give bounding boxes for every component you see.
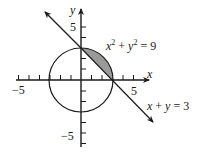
circle-equation-label: x2 + y2 = 9 — [105, 38, 156, 53]
y-axis-label: y — [69, 3, 76, 17]
y-tick-label-5: 5 — [70, 20, 76, 34]
x-tick-label-5: 5 — [131, 84, 137, 98]
y-axis-ticks — [81, 27, 86, 144]
line-x-plus-y-3-lower — [81, 48, 153, 122]
line-equation-label: x + y = 3 — [146, 99, 189, 113]
x-tick-label-neg5: −5 — [12, 83, 25, 97]
x-axis-label: x — [146, 67, 153, 81]
x-axis-ticks — [19, 75, 134, 80]
coordinate-plane-diagram: y 5 −5 x −5 5 x2 + y2 = 9 x + y = 3 — [0, 0, 210, 158]
y-tick-label-neg5: −5 — [61, 129, 74, 143]
